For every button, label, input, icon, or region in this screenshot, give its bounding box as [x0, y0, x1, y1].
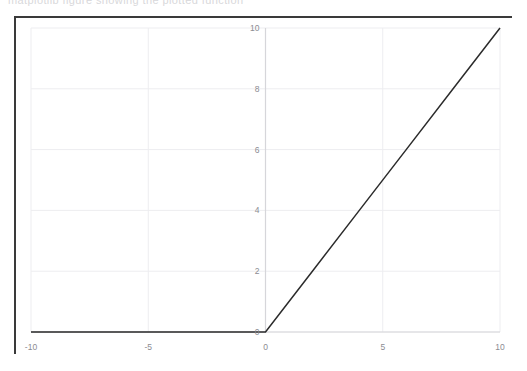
x-tick-label: 5 — [380, 342, 385, 352]
x-tick-label: -10 — [25, 342, 38, 352]
x-tick-label: 0 — [263, 342, 268, 352]
y-tick-label: 10 — [250, 23, 260, 33]
y-tick-label: 6 — [255, 145, 260, 155]
chart-svg: -10-50510 0246810 — [16, 18, 514, 356]
x-tick-label: 10 — [495, 342, 505, 352]
plot-canvas: -10-50510 0246810 — [16, 18, 514, 356]
caption-text: matplotlib figure showing the plotted fu… — [8, 0, 243, 6]
x-tick-label: -5 — [144, 342, 152, 352]
figure-frame: -10-50510 0246810 — [14, 16, 512, 354]
caption-strip: matplotlib figure showing the plotted fu… — [0, 0, 527, 8]
y-tick-label: 2 — [255, 266, 260, 276]
y-tick-label: 0 — [255, 327, 260, 337]
y-tick-label: 8 — [255, 84, 260, 94]
y-tick-label: 4 — [255, 205, 260, 215]
